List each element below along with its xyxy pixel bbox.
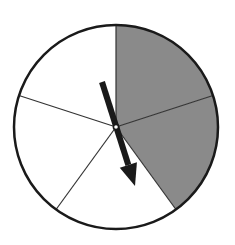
spinner-hub bbox=[113, 124, 118, 129]
spinner-diagram bbox=[0, 0, 235, 245]
